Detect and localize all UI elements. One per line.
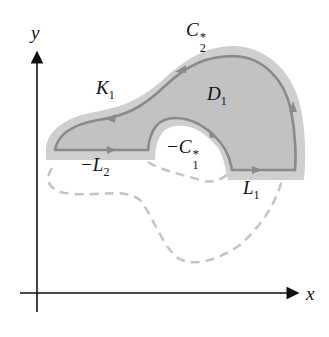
label-l1: L1 bbox=[243, 178, 260, 201]
y-axis-label: y bbox=[31, 23, 39, 42]
label-minus-c1-star: −C * 1 bbox=[166, 137, 200, 156]
label-c2-star: C * 2 bbox=[186, 20, 207, 39]
label-minus-l2: −L2 bbox=[80, 155, 109, 178]
label-d1: D1 bbox=[207, 84, 227, 107]
label-k1: K1 bbox=[96, 78, 115, 101]
dashed-inner-outline bbox=[148, 162, 230, 182]
x-axis-label: x bbox=[306, 284, 314, 303]
diagram-canvas bbox=[0, 0, 329, 337]
